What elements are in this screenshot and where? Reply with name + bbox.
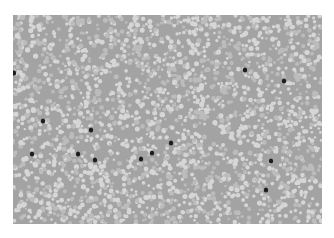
- dark-cell: [41, 118, 45, 123]
- dark-cell: [139, 156, 143, 161]
- dark-cell: [30, 151, 34, 156]
- dark-cell: [264, 187, 268, 192]
- dark-cell: [150, 150, 154, 155]
- dark-cell: [89, 127, 93, 132]
- dark-cell: [282, 78, 286, 83]
- blood-smear-image: [13, 15, 322, 224]
- dark-cell: [269, 158, 273, 163]
- dark-cell: [169, 140, 173, 145]
- dark-cell: [76, 151, 80, 156]
- dark-cell: [243, 67, 247, 72]
- micrograph-field: [13, 15, 322, 224]
- dark-cell: [93, 157, 97, 162]
